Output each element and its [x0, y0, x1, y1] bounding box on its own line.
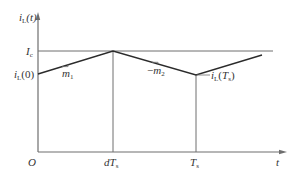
y-axis-label: iL(t) — [19, 11, 37, 25]
inductor-current-diagram: iL(t) Ic iL(0) m1 −m2 iL(Ts) O dTs Ts t — [0, 0, 296, 178]
x-axis-label: t — [276, 156, 280, 168]
dts-label: dTs — [104, 156, 119, 170]
x-axis-arrow-icon — [279, 150, 287, 154]
ilts-label: iL(Ts) — [211, 69, 235, 83]
il0-label: iL(0) — [14, 68, 35, 82]
m1-label: m1 — [62, 67, 74, 81]
ic-label: Ic — [25, 45, 33, 59]
ts-label: Ts — [190, 156, 199, 170]
axes — [36, 12, 287, 154]
origin-label: O — [28, 156, 36, 168]
m2-label: −m2 — [147, 64, 165, 78]
